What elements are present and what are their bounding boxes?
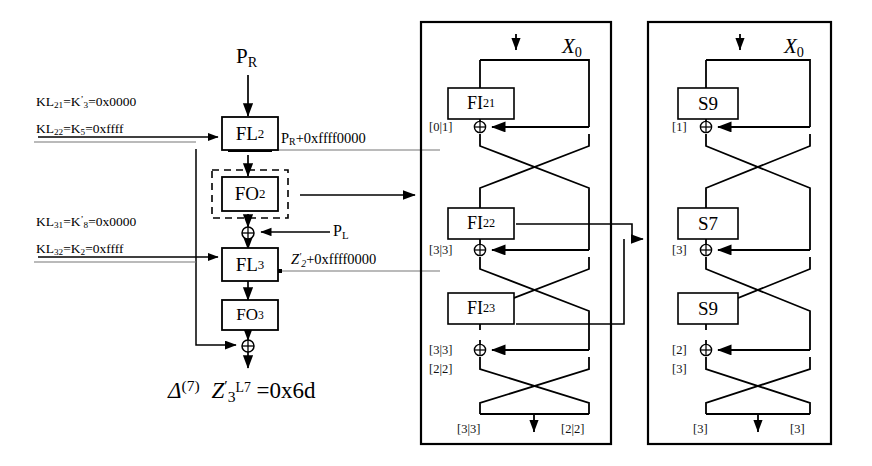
fi-output-left-label: [3] xyxy=(693,422,708,437)
fi21-box[interactable]: FI21 xyxy=(448,88,514,119)
key-line-kl22: KL22=K5=0xffff xyxy=(36,121,124,137)
fl2-output-annotation: PR+0xffff0000 xyxy=(281,131,366,147)
s7-mid-box[interactable]: S7 xyxy=(678,208,738,239)
fi-xor-label-3: [2] xyxy=(672,343,687,358)
input-plaintext-left-label: PL xyxy=(333,223,349,241)
s9-bottom-box[interactable]: S9 xyxy=(678,293,738,324)
fi-output-right-label: [3] xyxy=(790,422,805,437)
fo-output-right-label: [2|2] xyxy=(561,422,584,437)
fl2-box[interactable]: FL2 xyxy=(222,117,278,150)
fo3-box[interactable]: FO3 xyxy=(222,300,278,330)
fi22-box[interactable]: FI22 xyxy=(448,208,514,239)
fl3-output-annotation: Z′2+0xffff0000 xyxy=(291,252,376,269)
fi-panel-input-label: X0 xyxy=(784,36,804,59)
input-plaintext-right-label: PR xyxy=(236,46,257,69)
fo-xor-label-3: [3|3] xyxy=(429,343,452,358)
fo-output-left-label: [3|3] xyxy=(457,422,480,437)
key-line-kl21: KL21=K’3=0x0000 xyxy=(36,94,136,110)
figure-vector-layer xyxy=(0,0,872,466)
fl3-box[interactable]: FL3 xyxy=(222,248,278,281)
fo-xor-label-2: [3|3] xyxy=(429,243,452,258)
fi23-feedback-wire xyxy=(516,239,624,324)
fi-xor-label-2: [3] xyxy=(672,243,687,258)
fo-xor-label-3b: [2|2] xyxy=(429,362,452,377)
fo-panel-input-label: X0 xyxy=(562,36,582,59)
key-line-kl32: KL32=K2=0xffff xyxy=(36,241,124,257)
figure-canvas: PR FL2 FO2 FL3 FO3 PL PR+0xffff0000 Z′2+… xyxy=(0,0,872,466)
fi-xor-label-1: [1] xyxy=(672,120,687,135)
s9-top-box[interactable]: S9 xyxy=(678,88,738,119)
fi-xor-label-3b: [3] xyxy=(672,362,687,377)
fo-xor-label-1: [0|1] xyxy=(429,120,452,135)
fi23-box[interactable]: FI23 xyxy=(448,293,514,324)
key-line-kl31: KL31=K’8=0x0000 xyxy=(36,214,136,230)
fo2-box[interactable]: FO2 xyxy=(222,177,278,211)
bottom-differential-formula: Δ(7) Z′3L7 =0x6d xyxy=(168,378,316,405)
fi22-to-fi-panel-connector xyxy=(516,224,643,239)
